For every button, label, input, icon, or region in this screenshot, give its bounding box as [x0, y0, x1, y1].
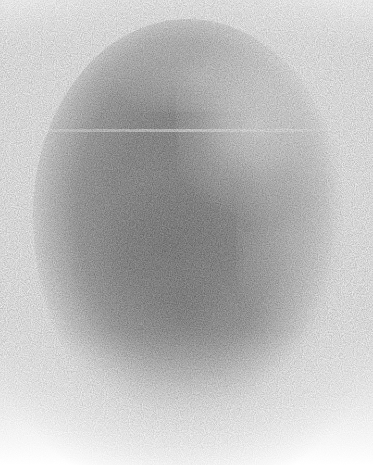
- bottom-falloff-washout: [0, 330, 373, 465]
- dense-core-center: [72, 150, 288, 376]
- counting-noise-overlay-dark: [0, 0, 373, 465]
- scan-image-canvas: [0, 0, 373, 465]
- blob-body: [33, 19, 343, 443]
- bottom-left-washout: [6, 318, 182, 464]
- dense-lobe-lower-center: [104, 246, 268, 396]
- detector-seam-line: [22, 129, 352, 132]
- blob-outer-halo: [8, 6, 365, 458]
- bottom-right-washout: [214, 320, 373, 465]
- corner-vignette: [0, 0, 373, 465]
- counting-noise-overlay-light: [0, 0, 373, 465]
- bright-highlight-top-cap: [96, 16, 306, 112]
- bright-highlight-upper-right: [176, 30, 362, 226]
- bright-highlight-right-flank: [236, 132, 362, 340]
